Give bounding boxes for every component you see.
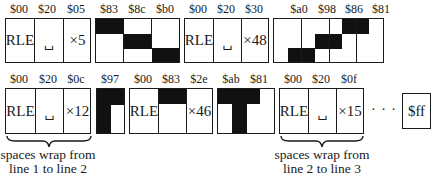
repeat-count-cell: ×15: [336, 89, 363, 133]
repeat-count-cell: ×12: [63, 89, 91, 133]
caption-line: spaces wrap from: [274, 148, 370, 162]
repeat-count-cell: ×46: [186, 89, 212, 133]
space-glyph: ␣: [223, 35, 233, 51]
byte-label: $ab: [217, 73, 245, 85]
pixel-block: [152, 48, 179, 62]
space-glyph: ␣: [44, 35, 54, 51]
space-char-cell: ␣: [35, 89, 63, 133]
caption-wrap2: spaces wrap from line 2 to line 3: [274, 148, 370, 176]
column-divider: [329, 19, 330, 62]
bitmap4-box: [217, 88, 275, 134]
rle2-box: RLE ␣ ×48: [184, 18, 269, 63]
ellipsis: · · ·: [370, 102, 398, 118]
byte-label: $20: [33, 3, 61, 15]
bitmap3-box: [96, 88, 125, 134]
byte-label: $00: [129, 73, 157, 85]
bitmap-char-cell: [158, 89, 186, 133]
rle5-box: RLE ␣ ×15: [279, 88, 364, 134]
rle-marker-cell: RLE: [130, 89, 158, 133]
caption-line: spaces wrap from: [0, 148, 96, 162]
byte-label: $20: [307, 73, 335, 85]
byte-label: $97: [96, 73, 124, 85]
rle-marker-cell: RLE: [185, 19, 213, 62]
space-char-cell: ␣: [213, 19, 241, 62]
byte-label: $00: [5, 3, 33, 15]
rle-marker-cell: RLE: [6, 89, 35, 133]
rle-marker-cell: RLE: [6, 19, 34, 62]
column-divider: [151, 19, 152, 48]
repeat-count-cell: ×5: [63, 19, 91, 62]
space-glyph: ␣: [318, 105, 328, 121]
space-char-cell: ␣: [308, 89, 336, 133]
rle3-box: RLE ␣ ×12: [5, 88, 91, 134]
byte-label: $83: [95, 3, 123, 15]
rle1-box: RLE ␣ ×5: [5, 18, 91, 63]
byte-label: $8c: [123, 3, 151, 15]
space-glyph: ␣: [45, 105, 55, 121]
byte-label: $0c: [62, 73, 90, 85]
caption-line: line 1 to line 2: [0, 162, 96, 176]
bitmap2-box: [273, 18, 384, 63]
rle4-box: RLE ×46: [129, 88, 213, 134]
byte-label: $81: [367, 3, 395, 15]
byte-label: $00: [184, 3, 212, 15]
byte-label: $98: [313, 3, 341, 15]
bitmap1-box: [95, 18, 180, 63]
terminator-box: $ff: [402, 93, 431, 129]
caption-line: line 2 to line 3: [274, 162, 370, 176]
byte-label: $2e: [185, 73, 213, 85]
byte-label: $05: [62, 3, 90, 15]
rle-marker-cell: RLE: [280, 89, 308, 133]
byte-label: $81: [245, 73, 273, 85]
byte-label: $00: [279, 73, 307, 85]
pixel-block: [96, 19, 124, 34]
byte-label: $20: [212, 3, 240, 15]
caption-wrap1: spaces wrap from line 1 to line 2: [0, 148, 96, 176]
pixel-block: [159, 89, 186, 104]
byte-label: $86: [340, 3, 368, 15]
column-divider: [301, 19, 302, 62]
pixel-block: [218, 89, 260, 104]
byte-label: $0f: [335, 73, 363, 85]
column-divider: [356, 19, 357, 62]
byte-label: $00: [5, 73, 33, 85]
byte-label: $20: [34, 73, 62, 85]
repeat-count-cell: ×48: [241, 19, 268, 62]
space-char-cell: ␣: [34, 19, 63, 62]
byte-label: $83: [157, 73, 185, 85]
byte-label: $a0: [285, 3, 313, 15]
pixel-gap: [110, 104, 124, 133]
pixel-block: [232, 104, 247, 133]
byte-label: $b0: [151, 3, 179, 15]
pixel-block: [124, 34, 152, 49]
byte-label: $30: [240, 3, 268, 15]
column-divider: [123, 34, 124, 62]
